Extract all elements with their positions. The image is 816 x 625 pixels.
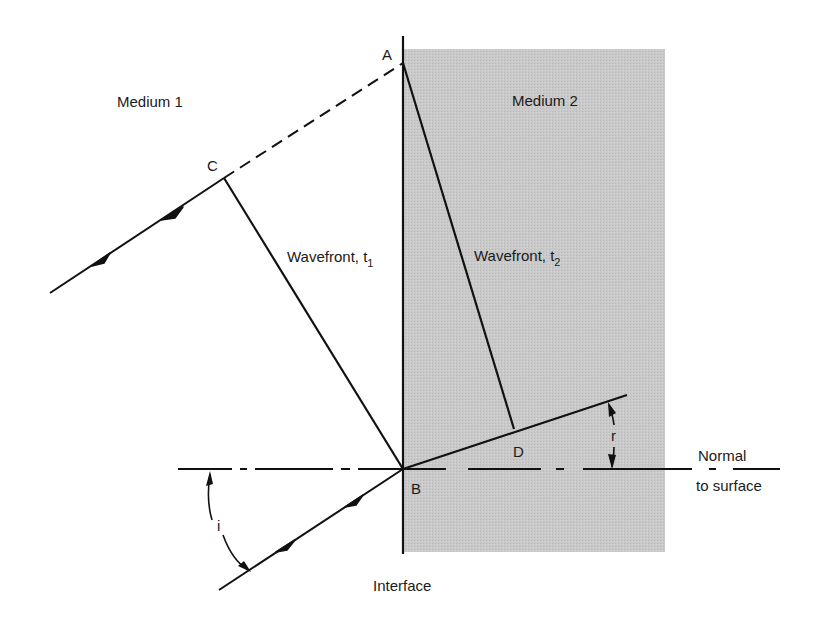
medium-2-label: Medium 2 bbox=[512, 92, 578, 109]
incident-ray-upper bbox=[50, 178, 224, 293]
wavefront-t1 bbox=[224, 178, 403, 469]
point-c-label: C bbox=[207, 157, 218, 174]
ray-extension-dashed bbox=[224, 63, 403, 178]
medium-2-region bbox=[404, 49, 665, 552]
point-b-label: B bbox=[411, 480, 421, 497]
normal-label-line1: Normal bbox=[698, 447, 746, 464]
refraction-diagram: Medium 1 Medium 2 A C B D Wavefront, t1 … bbox=[0, 0, 816, 625]
medium-1-label: Medium 1 bbox=[117, 93, 183, 110]
arrow-icon bbox=[161, 207, 183, 220]
incident-ray-lower bbox=[219, 469, 403, 590]
wavefront-t2-subscript: 2 bbox=[554, 256, 560, 268]
arrow-icon bbox=[92, 253, 110, 266]
wavefront-t1-label: Wavefront, t1 bbox=[287, 248, 373, 269]
arrow-icon bbox=[206, 471, 213, 486]
angle-r-label: r bbox=[611, 427, 616, 444]
arrow-icon bbox=[276, 540, 295, 552]
angle-i-label: i bbox=[217, 517, 220, 534]
wavefront-t1-text: Wavefront, t bbox=[287, 248, 368, 265]
wavefront-t2-text: Wavefront, t bbox=[474, 247, 555, 264]
interface-label: Interface bbox=[373, 577, 431, 594]
angle-i-indicator bbox=[208, 474, 248, 570]
wavefront-t1-subscript: 1 bbox=[367, 257, 373, 269]
point-d-label: D bbox=[513, 443, 524, 460]
arrow-icon bbox=[345, 495, 363, 507]
normal-label-line2: to surface bbox=[696, 477, 762, 494]
point-a-label: A bbox=[382, 46, 392, 63]
